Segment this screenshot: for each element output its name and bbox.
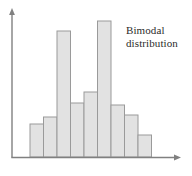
chart-annotation: Bimodal distribution (126, 24, 190, 50)
histogram-figure: Bimodal distribution (0, 0, 192, 176)
bar-6 (98, 21, 112, 157)
bar-1 (30, 124, 44, 157)
bar-3 (57, 31, 71, 157)
x-axis-arrowhead-icon (174, 155, 181, 161)
annotation-line-2: distribution (126, 37, 190, 50)
y-axis-arrowhead-icon (9, 8, 15, 15)
bar-7 (111, 105, 125, 157)
bar-8 (125, 115, 139, 157)
bar-4 (71, 103, 85, 157)
annotation-line-1: Bimodal (126, 24, 190, 37)
bar-2 (44, 117, 58, 157)
bar-9 (138, 135, 152, 157)
bar-5 (84, 92, 98, 157)
